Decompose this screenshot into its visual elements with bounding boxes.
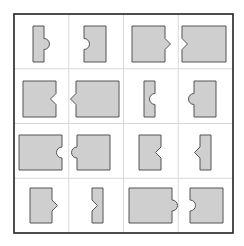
shape-triangle-bump-right-r0c2 [132,26,171,62]
shape-semicircle-notch-right-r1c2 [144,81,155,117]
shapes-layer [19,26,226,223]
puzzle-figure [0,0,244,246]
shape-semicircle-bump-right-r0c0 [33,26,50,62]
shape-semicircle-bump-left-r1c3 [189,81,217,117]
shape-triangle-bump-left-r2c3 [195,135,212,170]
shape-triangle-bump-left-r1c1 [71,81,120,117]
shape-semicircle-notch-right-r2c0 [19,135,62,170]
puzzle-grid-svg [0,0,244,246]
shape-triangle-notch-left-r3c1 [92,188,103,223]
shape-semicircle-bump-left-r2c1 [72,135,111,170]
shape-triangle-notch-right-r2c2 [139,135,161,170]
shape-triangle-notch-right-r1c0 [23,81,56,117]
shape-semicircle-notch-left-r3c3 [190,188,223,223]
shape-triangle-notch-left-r0c3 [182,26,226,62]
shape-semicircle-notch-left-r0c1 [84,26,106,62]
shape-triangle-bump-right-r3c0 [30,188,58,223]
shape-semicircle-bump-right-r3c2 [129,188,178,223]
